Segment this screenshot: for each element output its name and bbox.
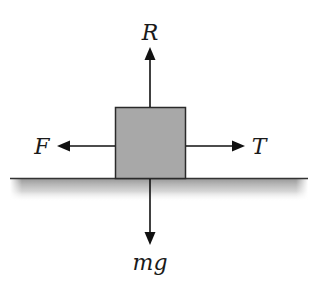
arrowhead-up-icon (145, 47, 156, 60)
friction-force-label: F (33, 134, 50, 159)
normal-force-arrow (145, 47, 156, 107)
friction-force-arrow (57, 141, 115, 152)
free-body-diagram: R F T mg (0, 0, 318, 285)
arrowhead-right-icon (232, 141, 245, 152)
arrowhead-down-icon (145, 232, 156, 245)
tension-force-label: T (252, 134, 269, 159)
weight-force-label: mg (133, 250, 168, 275)
ground-surface (10, 178, 308, 202)
normal-force-label: R (141, 20, 159, 45)
ground-shadow (10, 178, 308, 202)
block (116, 108, 186, 179)
tension-force-arrow (186, 141, 245, 152)
arrowhead-left-icon (57, 141, 70, 152)
